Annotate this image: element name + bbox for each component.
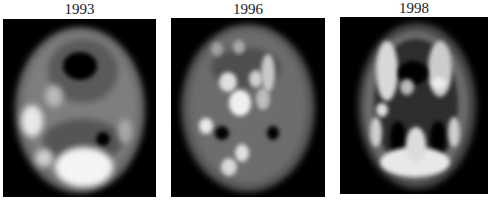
panel-label-1998: 1998 [340,0,488,16]
panel-label-1996: 1996 [171,1,325,17]
panel-label-1993: 1993 [3,1,156,17]
brain-scan-1993 [3,19,156,197]
brain-scan-1998 [340,17,488,194]
brain-scan-1996 [171,18,325,197]
